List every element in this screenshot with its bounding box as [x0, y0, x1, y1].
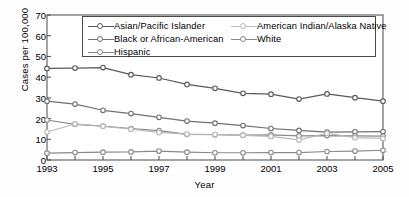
legend-label: White — [257, 34, 281, 44]
legend-column-1: Asian/Pacific IslanderBlack or African-A… — [88, 20, 223, 59]
x-tick-label: 2001 — [260, 163, 281, 174]
legend-label: American Indian/Alaska Native — [257, 21, 387, 31]
legend-item: White — [231, 33, 387, 45]
x-tick-label: 2005 — [372, 163, 393, 174]
x-tick-label: 1993 — [36, 163, 57, 174]
x-tick-label: 1999 — [204, 163, 225, 174]
legend-label: Asian/Pacific Islander — [114, 21, 205, 31]
legend-label: Black or African-American — [114, 34, 223, 44]
legend-item: Hispanic — [88, 46, 223, 58]
legend-item: Black or African-American — [88, 33, 223, 45]
legend-marker-icon — [88, 21, 114, 31]
x-tick-label: 2003 — [316, 163, 337, 174]
legend-item: American Indian/Alaska Native — [231, 20, 387, 32]
legend-column-2: American Indian/Alaska NativeWhite — [231, 20, 387, 46]
legend-marker-icon — [231, 21, 257, 31]
legend-label: Hispanic — [114, 47, 150, 57]
legend: Asian/Pacific IslanderBlack or African-A… — [82, 16, 376, 57]
x-tick-label: 1997 — [148, 163, 169, 174]
legend-item: Asian/Pacific Islander — [88, 20, 223, 32]
legend-marker-icon — [231, 34, 257, 44]
legend-marker-icon — [88, 47, 114, 57]
chart-figure: Cases per 100,000 Year 010203040506070 A… — [0, 0, 409, 197]
legend-marker-icon — [88, 34, 114, 44]
x-tick-label: 1995 — [92, 163, 113, 174]
